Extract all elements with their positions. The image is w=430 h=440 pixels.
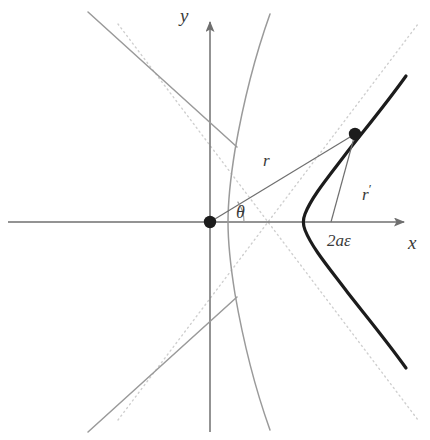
y-axis-label: y bbox=[180, 6, 188, 25]
focal-radius-label: r bbox=[263, 152, 270, 169]
directrix-radius-line bbox=[331, 134, 355, 222]
focus-point-dot bbox=[204, 216, 216, 228]
directrix-radius-label: r′ bbox=[362, 182, 371, 203]
diagram-canvas bbox=[0, 0, 430, 440]
segment-2aepsilon-label: 2aε bbox=[327, 232, 351, 249]
far-branch-lower-asymptote-tail bbox=[88, 297, 237, 432]
directrix-radius-letter: r bbox=[362, 185, 369, 204]
x-axis-label: x bbox=[408, 233, 416, 252]
prime-mark: ′ bbox=[369, 181, 372, 196]
axes-group bbox=[8, 22, 404, 432]
angle-theta-label: θ bbox=[236, 203, 245, 221]
orbit-point-dot bbox=[349, 128, 361, 140]
hyperbola-diagram: y x r r′ θ 2aε bbox=[0, 0, 430, 440]
far-branch-upper-tail bbox=[88, 10, 270, 29]
far-branch-upper-asymptote-tail bbox=[88, 12, 237, 147]
